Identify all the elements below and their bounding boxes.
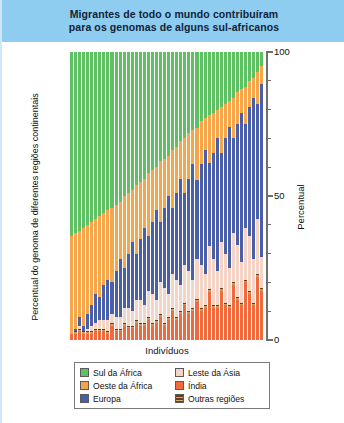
bar-segment	[119, 317, 122, 329]
bar-segment	[204, 118, 207, 150]
legend-swatch-icon	[175, 394, 184, 403]
bar-segment	[204, 308, 207, 340]
bar-segment	[82, 334, 85, 340]
bar-segment	[139, 239, 142, 299]
bar-segment	[70, 236, 73, 334]
bar-segment	[106, 52, 109, 210]
bar-segment	[183, 193, 186, 265]
figure-card: Migrantes de todo o mundo contribuíram p…	[0, 0, 344, 423]
bar-segment	[110, 208, 113, 283]
bar-segment	[123, 196, 126, 268]
bar-segment	[139, 52, 142, 182]
bar-segment	[135, 185, 138, 254]
bar-segment	[256, 277, 259, 340]
legend-item[interactable]: Sul da África	[80, 366, 169, 379]
bar-segment	[175, 147, 178, 193]
bar-segment	[224, 104, 227, 139]
legend-label: Índia	[188, 381, 207, 391]
bar-segment	[191, 280, 194, 309]
bar-segment	[155, 300, 158, 320]
bar-segment	[179, 52, 182, 141]
bar-segment	[187, 133, 190, 179]
bar-segment	[204, 52, 207, 118]
bar-segment	[236, 245, 239, 297]
bar-segment	[86, 225, 89, 314]
bar-segment	[143, 326, 146, 340]
bar-segment	[127, 328, 130, 340]
legend-item[interactable]: Índia	[175, 379, 264, 392]
bar-segment	[74, 334, 77, 340]
bar-segment	[260, 291, 263, 340]
bar-segment	[236, 92, 239, 124]
bar-segment	[102, 213, 105, 285]
bar-segment	[187, 179, 190, 271]
bar-segment	[86, 334, 89, 340]
bar-segment	[94, 331, 97, 340]
bar-segment	[200, 311, 203, 340]
bar-segment	[159, 52, 162, 161]
bar-segment	[82, 228, 85, 326]
bar-segment	[212, 153, 215, 260]
bar-segment	[86, 52, 89, 225]
bar-segment	[74, 52, 77, 233]
bar-segment	[106, 320, 109, 332]
y-tick	[266, 224, 271, 225]
stacked-bars	[70, 52, 264, 340]
bar-segment	[187, 314, 190, 340]
bar-segment	[236, 124, 239, 245]
bar-segment	[155, 52, 158, 167]
bar-segment	[216, 138, 219, 270]
bar-segment	[260, 257, 263, 289]
bar-segment	[224, 52, 227, 104]
bar-segment	[139, 300, 142, 323]
y-tick	[266, 109, 271, 110]
bar-segment	[163, 159, 166, 208]
bar-segment	[244, 52, 247, 87]
bar-segment	[135, 52, 138, 184]
bar-segment	[102, 285, 105, 320]
bar-segment	[224, 138, 227, 253]
y-tick	[266, 167, 271, 168]
bar-segment	[240, 305, 243, 340]
legend-swatch-icon	[80, 381, 89, 390]
bar-segment	[119, 52, 122, 202]
legend-item[interactable]: Outras regiões	[175, 392, 264, 405]
bar-segment	[110, 52, 113, 208]
legend-item[interactable]: Oeste da África	[80, 379, 169, 392]
bar-segment	[248, 294, 251, 340]
legend-label: Outras regiões	[188, 394, 244, 404]
chart-legend: Sul da ÁfricaLeste da ÁsiaOeste da Áfric…	[74, 362, 270, 409]
bar-segment	[119, 202, 122, 260]
bar-segment	[110, 282, 113, 314]
bar-segment	[106, 334, 109, 340]
y-tick	[266, 195, 273, 196]
bar-segment	[256, 52, 259, 72]
y-tick	[266, 138, 271, 139]
bar-segment	[195, 180, 198, 259]
bar-segment	[220, 242, 223, 288]
legend-item[interactable]: Leste da Ásia	[175, 366, 264, 379]
bar-segment	[195, 52, 198, 128]
bar-segment	[106, 210, 109, 279]
bar-segment	[208, 115, 211, 163]
y-tick	[266, 311, 271, 312]
bar-segment	[147, 52, 150, 173]
bar-segment	[143, 228, 146, 306]
bar-segment	[135, 300, 138, 320]
legend-item[interactable]: Europa	[80, 392, 169, 405]
bar-segment	[240, 52, 243, 89]
bar-segment	[147, 173, 150, 236]
bar-segment	[240, 89, 243, 112]
y-tick	[266, 51, 273, 52]
bar-segment	[167, 156, 170, 196]
bar-segment	[260, 66, 263, 83]
bar-segment	[179, 314, 182, 340]
y-tick-label: 100	[274, 47, 290, 57]
x-axis-title: Indivíduos	[70, 345, 264, 356]
bar-segment	[151, 326, 154, 340]
bar-segment	[70, 334, 73, 340]
bar-segment	[240, 113, 243, 263]
bar-segment	[167, 320, 170, 340]
bar-segment	[78, 331, 81, 340]
bar-segment	[127, 193, 130, 253]
